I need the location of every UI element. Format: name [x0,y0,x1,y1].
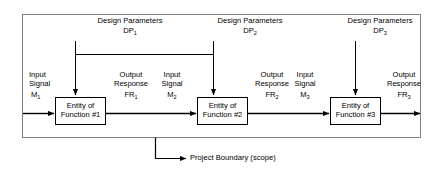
entity-box-1-line2: Function #1 [61,110,101,119]
m3-subscript: 3 [307,94,310,100]
entity-box-2-line2: Function #2 [203,110,243,119]
dp1-symbol-text: DP [123,26,134,35]
fr3-subscript: 3 [408,94,411,100]
input-signal-label-3-line2: Signal [294,80,315,89]
dp1-symbol: DP1 [123,27,137,36]
m2-subscript: 2 [174,94,177,100]
project-boundary-leader [156,138,187,159]
entity-box-2-label: Entity ofFunction #2 [203,101,243,120]
dp3-subscript: 3 [384,30,387,36]
entity-box-1-label: Entity ofFunction #1 [61,101,101,120]
design-parameters-label-3: Design Parameters [348,17,413,26]
entity-box-3-line1: Entity of [342,101,369,110]
output-symbol-fr1: FR1 [124,91,137,100]
output-response-label-3-line2: Response [387,80,421,89]
design-parameters-label-1: Design Parameters [98,17,163,26]
m1-subscript: 1 [37,94,40,100]
output-response-label-2-line2: Response [255,80,289,89]
dp1-subscript: 1 [134,30,137,36]
fr1-symbol-text: FR [124,90,134,99]
design-parameters-label-2: Design Parameters [218,17,283,26]
fr1-subscript: 1 [135,94,138,100]
fr2-symbol-text: FR [265,90,275,99]
entity-box-1-line1: Entity of [67,101,94,110]
fr3-symbol-text: FR [397,90,407,99]
output-symbol-fr2: FR2 [265,91,278,100]
dp3-symbol-text: DP [373,26,384,35]
fr2-subscript: 2 [276,94,279,100]
entity-box-2-line1: Entity of [209,101,236,110]
input-symbol-m1: M1 [31,91,40,100]
dp2-symbol: DP2 [243,27,257,36]
entity-box-3-line2: Function #3 [336,110,376,119]
output-response-label-1-line2: Response [114,80,148,89]
input-symbol-m3: M3 [300,91,309,100]
input-signal-label-2-line2: Signal [161,80,182,89]
dp2-symbol-text: DP [243,26,254,35]
dp2-subscript: 2 [254,30,257,36]
output-symbol-fr3: FR3 [397,91,410,100]
diagram-canvas: Design Parameters DP1 Input Signal M1 En… [0,0,436,186]
project-boundary-label: Project Boundary (scope) [190,154,276,163]
input-signal-label-1-line2: Signal [29,80,50,89]
entity-box-3-label: Entity ofFunction #3 [336,101,376,120]
dp3-symbol: DP3 [373,27,387,36]
input-symbol-m2: M2 [167,91,176,100]
